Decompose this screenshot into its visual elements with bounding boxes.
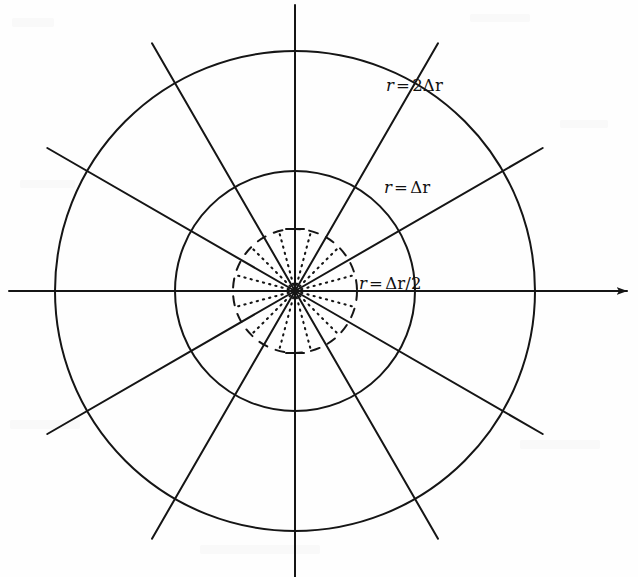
label-outer-var: r	[386, 76, 394, 95]
polar-grid-svg	[0, 0, 638, 577]
radial-spoke	[295, 291, 438, 539]
label-inner-op: =	[367, 274, 385, 293]
label-outer-op: =	[394, 76, 412, 95]
origin-node	[292, 288, 298, 294]
label-outer-value: 2Δr	[412, 76, 443, 95]
label-middle-value: Δr	[410, 178, 430, 197]
radial-spoke	[47, 291, 295, 434]
radial-spoke	[152, 43, 295, 291]
label-outer-radius: r=2Δr	[386, 76, 443, 95]
label-middle-var: r	[384, 178, 392, 197]
label-middle-radius: r=Δr	[384, 178, 430, 197]
radial-spoke	[295, 291, 543, 434]
radial-spoke	[295, 148, 543, 291]
radial-spoke	[152, 291, 295, 539]
label-inner-radius: r=Δr/2	[359, 274, 422, 293]
label-middle-op: =	[392, 178, 410, 197]
radial-spoke	[47, 148, 295, 291]
label-inner-value: Δr/2	[385, 274, 422, 293]
label-inner-var: r	[359, 274, 367, 293]
figure-canvas: r=2Δr r=Δr r=Δr/2	[0, 0, 638, 577]
